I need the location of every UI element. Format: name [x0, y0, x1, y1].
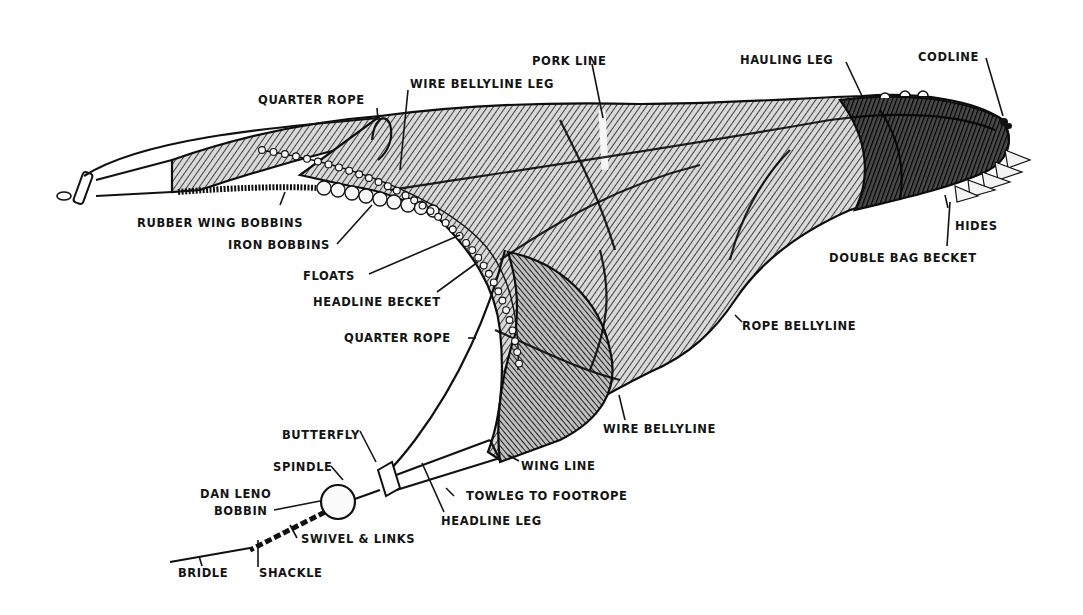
label-wing-line: WING LINE [521, 459, 596, 473]
float [427, 208, 434, 215]
float [480, 262, 487, 269]
float [486, 270, 493, 277]
label-shackle: SHACKLE [259, 566, 323, 580]
label-butterfly: BUTTERFLY [282, 428, 360, 442]
label-bridle: BRIDLE [178, 566, 228, 580]
label-spindle: SPINDLE [273, 460, 333, 474]
float [315, 158, 322, 165]
butterfly [378, 462, 400, 496]
label-dan-leno-line1: DAN LENO [200, 487, 271, 501]
spindle-chain [352, 490, 380, 500]
float [384, 183, 391, 190]
float [259, 147, 266, 154]
float [293, 153, 300, 160]
label-headline-becket: HEADLINE BECKET [313, 295, 441, 309]
float [282, 151, 289, 158]
float [411, 197, 418, 204]
float [402, 192, 409, 199]
label-towleg-to-footrope: TOWLEG TO FOOTROPE [466, 489, 628, 503]
float [503, 307, 510, 314]
float [393, 187, 400, 194]
bridle-rope [170, 548, 250, 562]
float [449, 226, 456, 233]
label-hauling-leg: HAULING LEG [740, 53, 833, 67]
label-dan-leno-line2: BOBBIN [214, 504, 268, 518]
float [419, 202, 426, 209]
float [469, 247, 476, 254]
float [442, 220, 449, 227]
float [506, 317, 513, 324]
float [512, 338, 519, 345]
float [435, 213, 442, 220]
label-quarter-rope-lower: QUARTER ROPE [344, 331, 451, 345]
upper-bridle-low [96, 192, 172, 196]
trawl-net-diagram: PORK LINE HAULING LEG CODLINE QUARTER RO… [0, 0, 1083, 615]
float [509, 327, 516, 334]
label-iron-bobbins: IRON BOBBINS [228, 238, 330, 252]
float [375, 179, 382, 186]
label-headline-leg: HEADLINE LEG [441, 514, 542, 528]
float [304, 155, 311, 162]
label-pork-line: PORK LINE [532, 54, 606, 68]
float [270, 149, 277, 156]
label-floats: FLOATS [303, 269, 355, 283]
label-hides: HIDES [955, 219, 998, 233]
float [463, 240, 470, 247]
float [336, 164, 343, 171]
float [356, 171, 363, 178]
wing-tip-shackle [73, 171, 93, 204]
float [490, 279, 497, 286]
label-swivel-links: SWIVEL & LINKS [301, 532, 415, 546]
label-rope-bellyline: ROPE BELLYLINE [742, 319, 856, 333]
net-body [172, 95, 1009, 462]
label-codline: CODLINE [918, 50, 979, 64]
label-wire-bellyline-leg: WIRE BELLYLINE LEG [410, 77, 554, 91]
diagram-canvas: PORK LINE HAULING LEG CODLINE QUARTER RO… [0, 0, 1083, 615]
float [346, 167, 353, 174]
float [325, 161, 332, 168]
float [514, 349, 521, 356]
wing-tip-ring [57, 192, 71, 200]
label-wire-bellyline: WIRE BELLYLINE [603, 422, 716, 436]
label-double-bag-becket: DOUBLE BAG BECKET [829, 251, 977, 265]
float [495, 288, 502, 295]
float [366, 175, 373, 182]
float [499, 297, 506, 304]
dan-leno-bobbin [321, 485, 355, 519]
float [475, 254, 482, 261]
float [516, 360, 523, 367]
label-quarter-rope-top: QUARTER ROPE [258, 93, 365, 107]
headline-leg-rope [388, 440, 490, 478]
towleg-rope [390, 458, 500, 492]
label-rubber-wing-bobbins: RUBBER WING BOBBINS [137, 216, 303, 230]
